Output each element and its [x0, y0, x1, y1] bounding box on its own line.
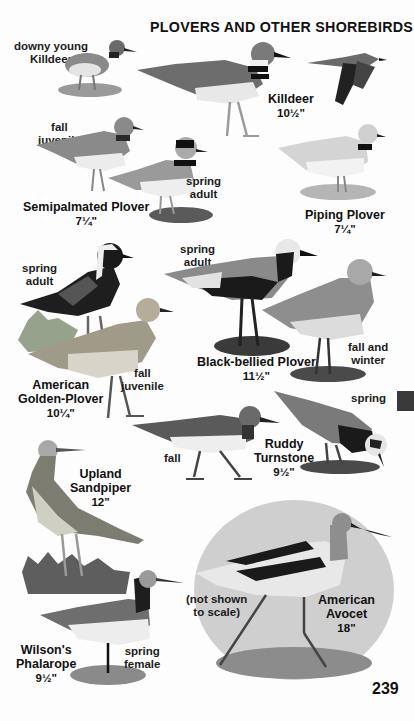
page-number: 239	[372, 680, 399, 698]
species-size: 7¼"	[305, 222, 385, 236]
species-name-line: Sandpiper	[70, 481, 131, 495]
label-line: fall	[121, 367, 164, 380]
label-spring-ruddy-turnstone: spring	[351, 392, 386, 405]
species-name-line: Phalarope	[16, 657, 76, 671]
species-size: 12"	[70, 495, 131, 509]
species-name-line: Avocet	[318, 607, 375, 621]
field-guide-page: PLOVERS AND OTHER SHOREBIRDS downy young…	[0, 0, 414, 721]
species-size: 7¼"	[23, 214, 149, 228]
label-line: adult	[186, 188, 221, 201]
label-black-bellied-plover: Black-bellied Plover 11½"	[197, 355, 316, 383]
label-semipalmated-plover: Semipalmated Plover 7¼"	[23, 200, 149, 228]
species-size: 9½"	[16, 671, 76, 685]
species-size: 10¼"	[18, 406, 103, 420]
label-line: spring	[124, 645, 160, 658]
species-name: Killdeer	[268, 92, 314, 106]
note-line: (not shown	[186, 593, 247, 606]
label-fall-ruddy-turnstone: fall	[164, 452, 181, 465]
label-fall-and-winter-black-bellied: fall and winter	[348, 341, 388, 367]
killdeer-flight-illustration	[305, 45, 385, 107]
label-line: spring	[186, 175, 221, 188]
species-size: 18"	[318, 621, 375, 635]
label-piping-plover: Piping Plover 7¼"	[305, 208, 385, 236]
species-name-line: American	[18, 378, 103, 392]
species-size: 10½"	[268, 106, 314, 120]
label-american-avocet: American Avocet 18"	[318, 593, 375, 635]
label-killdeer: Killdeer 10½"	[268, 92, 314, 120]
label-spring-female-phalarope: spring female	[124, 645, 160, 671]
piping-plover-illustration	[276, 122, 386, 202]
label-spring-adult-semipalmated: spring adult	[186, 175, 221, 201]
species-name-line: American	[318, 593, 375, 607]
species-name: Piping Plover	[305, 208, 385, 222]
section-thumb-tab	[397, 391, 414, 411]
label-line: fall and	[348, 341, 388, 354]
species-name-line: Golden-Plover	[18, 392, 103, 406]
label-fall-juvenile-golden-plover: fall juvenile	[121, 367, 164, 393]
label-line: female	[124, 658, 160, 671]
species-name: Semipalmated Plover	[23, 200, 149, 214]
downy-young-killdeer-illustration	[55, 30, 145, 100]
label-upland-sandpiper: Upland Sandpiper 12"	[70, 467, 131, 509]
label-line: winter	[348, 354, 388, 367]
species-name: Black-bellied Plover	[197, 355, 316, 369]
killdeer-adult-illustration	[135, 38, 295, 138]
species-size: 11½"	[197, 369, 316, 383]
label-line: fall	[164, 452, 181, 465]
species-name-line: Wilson's	[16, 643, 76, 657]
label-line: spring	[351, 392, 386, 405]
label-not-shown-to-scale: (not shown to scale)	[186, 593, 247, 619]
label-american-golden-plover: American Golden-Plover 10¼"	[18, 378, 103, 420]
species-name-line: Upland	[70, 467, 131, 481]
label-wilsons-phalarope: Wilson's Phalarope 9½"	[16, 643, 76, 685]
note-line: to scale)	[186, 606, 247, 619]
label-line: juvenile	[121, 380, 164, 393]
page-title: PLOVERS AND OTHER SHOREBIRDS	[150, 18, 413, 36]
